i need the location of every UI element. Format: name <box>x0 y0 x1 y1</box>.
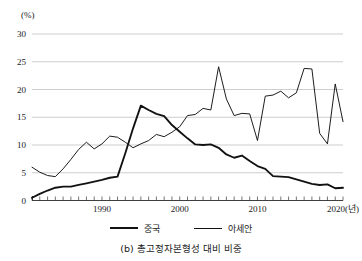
y-tick-label-30: 30 <box>17 29 27 39</box>
legend-label: 중국 <box>144 222 160 235</box>
figure-container: (%) 051015202530 1990200020102020(년) 중국아… <box>0 0 362 261</box>
y-tick-label-5: 5 <box>22 168 27 178</box>
legend-item-asean[interactable]: 아세안 <box>194 222 252 235</box>
y-tick-label-10: 10 <box>17 140 27 150</box>
x-tick-label-1990: 1990 <box>93 204 112 214</box>
y-tick-label-20: 20 <box>17 85 27 95</box>
chart-legend: 중국아세안 <box>0 219 362 237</box>
figure-caption: (b) 총고정자본형성 대비 비중 <box>0 241 362 255</box>
x-tick-label-2010: 2010 <box>248 204 267 214</box>
x-tick-labels-group: 1990200020102020(년) <box>93 204 359 214</box>
series-line-asean <box>32 67 343 177</box>
series-lines-group <box>32 67 343 198</box>
x-tick-marks-group <box>32 197 343 201</box>
legend-line-swatch-icon <box>110 227 138 229</box>
x-tick-label-2000: 2000 <box>171 204 190 214</box>
plot-area: 051015202530 1990200020102020(년) <box>0 0 362 215</box>
y-tick-label-25: 25 <box>17 57 27 67</box>
legend-line-swatch-icon <box>194 228 222 229</box>
gridlines-group <box>32 34 343 173</box>
legend-item-china[interactable]: 중국 <box>110 222 160 235</box>
x-tick-label-2020: 2020(년) <box>327 204 359 214</box>
y-tick-label-0: 0 <box>22 196 27 206</box>
series-line-china <box>32 106 343 198</box>
y-tick-labels-group: 051015202530 <box>17 29 27 206</box>
line-chart-svg: 051015202530 1990200020102020(년) <box>0 0 362 215</box>
y-tick-label-15: 15 <box>17 112 27 122</box>
legend-label: 아세안 <box>228 222 252 235</box>
